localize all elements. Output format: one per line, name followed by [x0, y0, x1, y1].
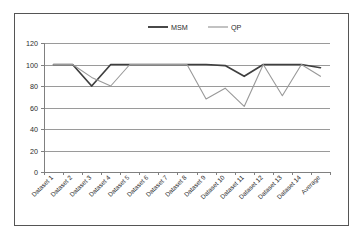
y-tick-label: 100 [26, 61, 38, 70]
y-tick-label: 120 [26, 39, 38, 48]
y-tick-label: 80 [30, 82, 38, 91]
line-chart: 020406080100120 Dataset 1Dataset 2Datase… [0, 0, 364, 236]
plot-area-background [44, 43, 330, 172]
legend-label-msm: MSM [171, 23, 188, 32]
chart-container: 020406080100120 Dataset 1Dataset 2Datase… [0, 0, 364, 236]
y-tick-label: 20 [30, 147, 38, 156]
legend-label-qp: QP [231, 23, 242, 32]
y-tick-label: 0 [34, 168, 38, 177]
y-tick-label: 60 [30, 104, 38, 113]
y-tick-label: 40 [30, 125, 38, 134]
